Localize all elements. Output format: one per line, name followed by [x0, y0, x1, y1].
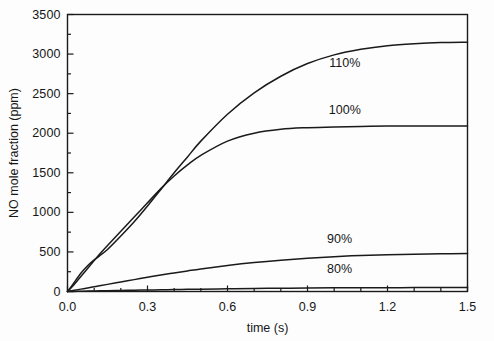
y-tick-label: 3500 — [32, 8, 60, 22]
y-tick-label: 3000 — [32, 47, 60, 61]
x-tick-label: 0.3 — [139, 300, 157, 314]
plot-frame — [68, 15, 468, 292]
y-tick-label: 1500 — [32, 166, 60, 180]
x-axis-title: time (s) — [247, 321, 289, 335]
x-tick-label: 0.0 — [59, 300, 77, 314]
y-tick-label: 1000 — [32, 205, 60, 219]
series-label-90pct: 90% — [327, 232, 352, 246]
y-tick-label: 2500 — [32, 87, 60, 101]
data-curves — [68, 42, 468, 291]
series-label-80pct: 80% — [327, 262, 352, 276]
no-mole-fraction-chart: 0500100015002000250030003500 0.00.30.60.… — [0, 0, 494, 341]
y-tick-label: 500 — [39, 245, 60, 259]
x-tick-label: 0.6 — [219, 300, 237, 314]
series-label-110pct: 110% — [329, 56, 360, 70]
y-axis-title: NO mole fraction (ppm) — [7, 88, 21, 218]
x-tick-label: 0.9 — [299, 300, 317, 314]
y-tick-label: 0 — [53, 285, 60, 299]
x-tick-label: 1.2 — [379, 300, 397, 314]
y-tick-label: 2000 — [32, 126, 60, 140]
plot-area — [0, 0, 494, 341]
axis-ticks — [68, 15, 468, 292]
x-tick-label: 1.5 — [459, 300, 477, 314]
series-label-100pct: 100% — [329, 103, 361, 117]
